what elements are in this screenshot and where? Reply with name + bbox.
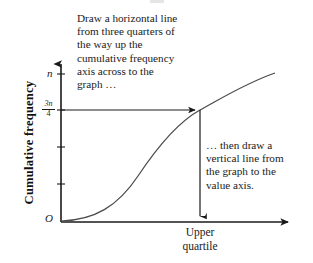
y-axis-label-three-quarters: 3n 4 — [39, 100, 58, 119]
y-axis-title: Cumulative frequency — [22, 58, 37, 228]
origin-label: O — [45, 212, 53, 224]
fraction-denominator: 4 — [39, 110, 58, 119]
fraction-numerator: 3n — [39, 100, 58, 109]
annotation-top: Draw a horizontal line from three quarte… — [77, 12, 207, 91]
x-axis-label-upper-quartile: Upper quartile — [160, 226, 240, 253]
y-axis-label-n: n — [47, 67, 53, 79]
annotation-right: … then draw a vertical line from the gra… — [206, 139, 313, 192]
figure-canvas: Cumulative frequency n 3n 4 O Draw a hor… — [0, 0, 313, 263]
